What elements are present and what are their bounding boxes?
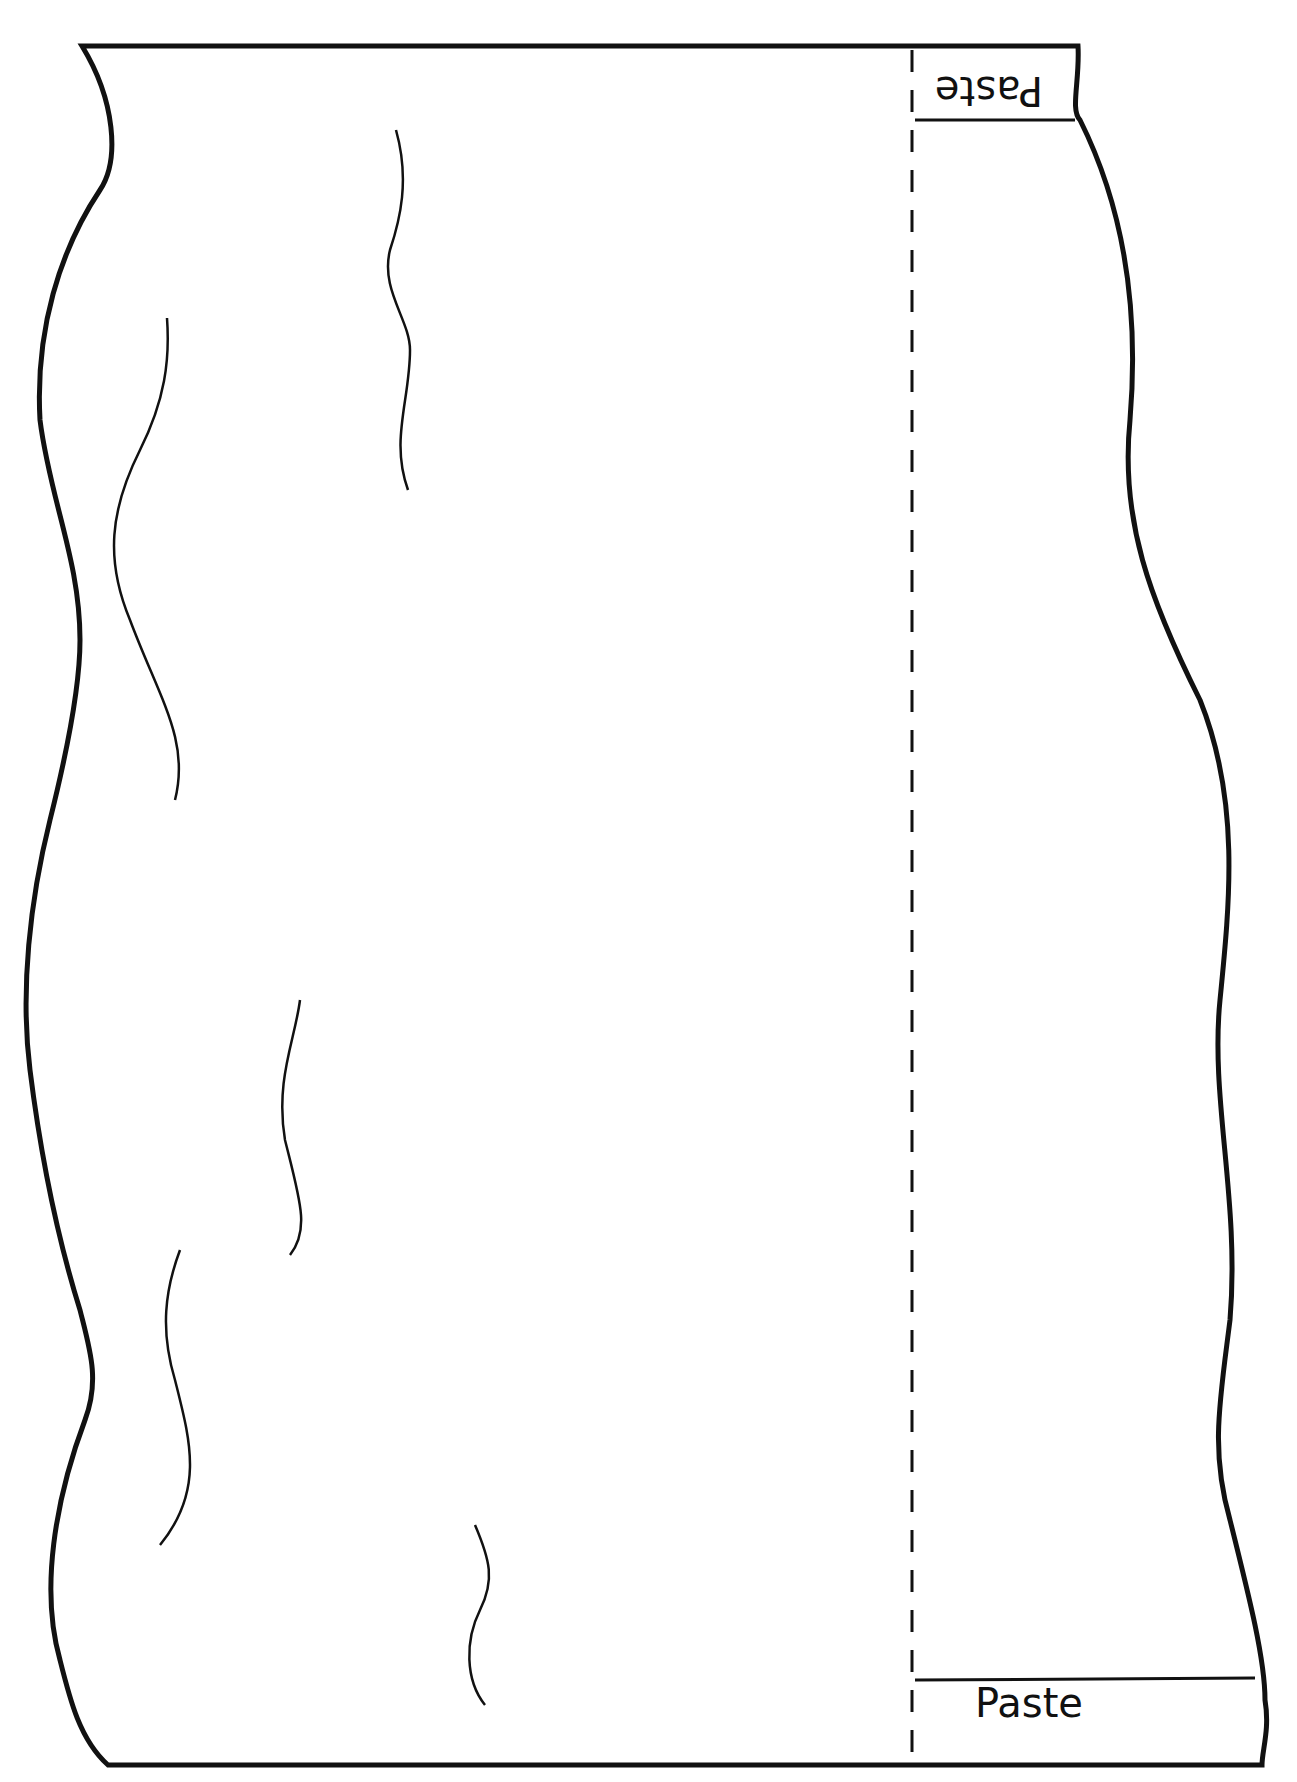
bottom-paste-label: Paste xyxy=(975,1680,1083,1726)
wave-stroke-4 xyxy=(160,1250,190,1545)
wave-stroke-1 xyxy=(388,130,410,490)
wave-stroke-5 xyxy=(469,1525,489,1705)
wave-stroke-3 xyxy=(282,1000,301,1255)
outer-border xyxy=(26,46,1267,1765)
top-paste-label: Paste xyxy=(935,68,1043,114)
bottom-paste-tab-line xyxy=(915,1678,1255,1680)
template-outline xyxy=(0,0,1297,1782)
wave-stroke-2 xyxy=(114,318,179,800)
